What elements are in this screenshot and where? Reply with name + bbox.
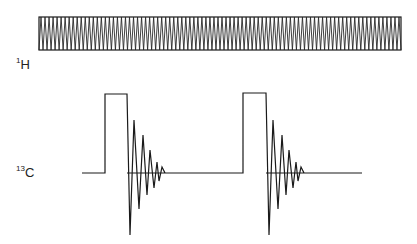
- pulse-sequence-diagram: [0, 0, 417, 244]
- proton-element: H: [20, 57, 29, 72]
- carbon-channel-label: 13C: [16, 166, 34, 179]
- carbon-element: C: [25, 165, 34, 180]
- decoupling-zigzag: [39, 17, 401, 50]
- proton-mass-number: 1: [16, 56, 20, 65]
- carbon-pulse-fid-trace: [82, 93, 362, 235]
- carbon-mass-number: 13: [16, 164, 25, 173]
- carbon-channel: [82, 93, 362, 235]
- proton-channel-label: 1H: [16, 58, 30, 71]
- proton-channel: [39, 17, 401, 50]
